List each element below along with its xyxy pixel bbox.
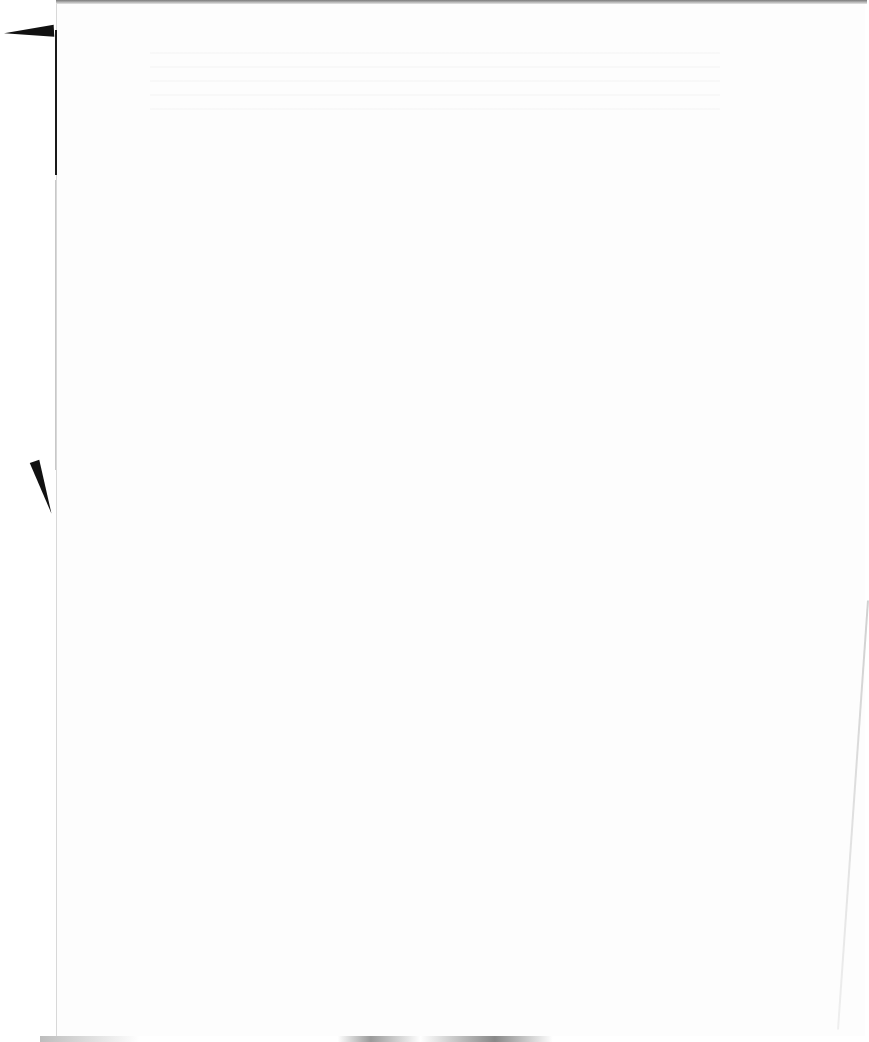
bleed-through-text [150, 40, 720, 110]
scan-bottom-edge [40, 1036, 867, 1042]
scan-top-edge [56, 0, 867, 4]
binding-edge [55, 30, 57, 175]
page-corner-mark-bottom [30, 460, 57, 515]
binding-edge-faint [55, 180, 56, 470]
page-corner-mark-top [4, 25, 55, 40]
blank-page [56, 0, 865, 1037]
